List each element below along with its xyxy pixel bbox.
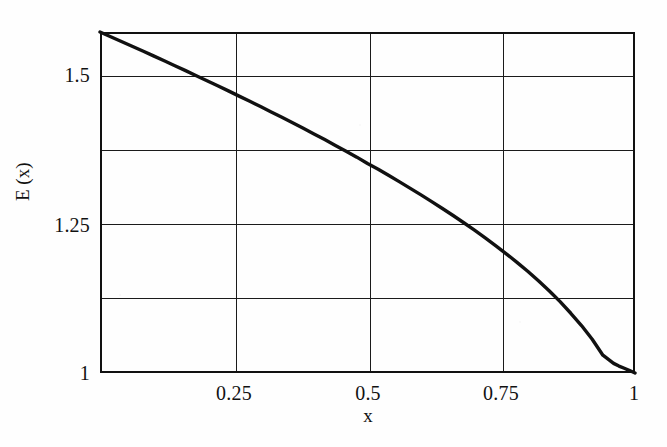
x-tick-label-4: 1 — [611, 383, 657, 403]
x-tick-label-2: 0.5 — [333, 383, 403, 403]
y-tick-label-1: 1.5 — [34, 65, 90, 85]
y-axis-title: E (x) — [13, 175, 33, 201]
x-tick-label-3: 0.75 — [461, 383, 541, 403]
figure-canvas: 1.5 1.25 1 E (x) 0.25 0.5 0.75 1 x — [0, 0, 667, 447]
x-tick-label-1: 0.25 — [194, 383, 274, 403]
x-axis-title: x — [345, 406, 391, 426]
y-tick-label-3: 1 — [34, 363, 90, 383]
data-curve-layer — [100, 32, 635, 373]
series-curve-E-of-x — [100, 32, 635, 373]
y-tick-label-2: 1.25 — [24, 215, 90, 235]
